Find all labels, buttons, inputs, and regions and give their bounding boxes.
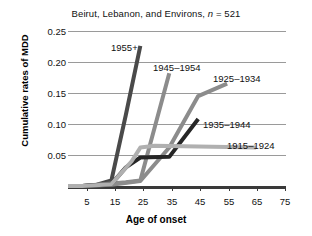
series-label-1915-1924: 1915–1924 bbox=[227, 140, 275, 151]
series-layer bbox=[0, 0, 312, 236]
series-line bbox=[68, 146, 256, 186]
series-label-1925-1934: 1925–1934 bbox=[213, 73, 261, 84]
series-line bbox=[68, 73, 169, 186]
series-label-1945-1954: 1945–1954 bbox=[153, 62, 201, 73]
series-label-1935-1944: 1935–1944 bbox=[203, 119, 251, 130]
series-line bbox=[68, 84, 227, 186]
series-label-1955-plus: 1955+ bbox=[111, 42, 138, 53]
chart-container: Beirut, Lebanon, and Environs, n = 521 C… bbox=[0, 0, 312, 236]
